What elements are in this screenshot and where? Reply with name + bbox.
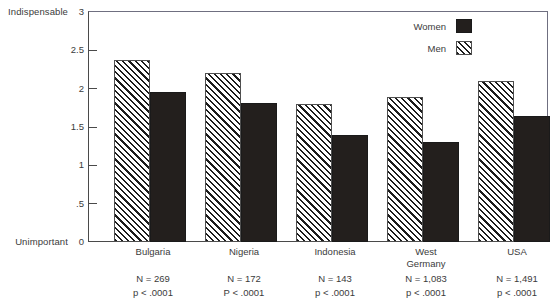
bar-group-nigeria: [205, 12, 283, 242]
p-value-label: p < .0001: [478, 286, 556, 300]
p-value-label: p < .0001: [387, 286, 465, 300]
sample-size-label: N = 269: [136, 273, 170, 284]
y-tick-label: 3: [79, 6, 84, 18]
bar-men-indonesia: [296, 104, 332, 242]
p-value-label: p < .0001: [114, 286, 192, 300]
y-tick-label: 1: [79, 159, 84, 171]
bar-women-bulgaria: [150, 92, 186, 242]
bar-men-bulgaria: [114, 60, 150, 242]
x-category-nigeria: Nigeria: [205, 246, 283, 258]
bar-group-indonesia: [296, 12, 374, 242]
hatched-swatch-icon: [456, 41, 472, 55]
y-tick-1: 1: [0, 159, 88, 171]
x-category-label: Indonesia: [314, 246, 355, 257]
x-category-label-line2: Germany: [387, 258, 465, 270]
x-category-label: Nigeria: [229, 246, 259, 257]
x-stats-nigeria: N = 172 P < .0001: [205, 272, 283, 300]
y-tick-2point5: 2.5: [0, 44, 88, 56]
y-axis: Indispensable 3 2.5 2 1.5 1 .5 Unimporta…: [0, 0, 88, 304]
y-tick-point5: .5: [0, 198, 88, 210]
p-value-label: p < .0001: [296, 286, 374, 300]
bar-group-bulgaria: [114, 12, 192, 242]
x-category-west-germany: West Germany: [387, 246, 465, 270]
y-tick-label: 2.5: [71, 44, 84, 56]
sample-size-label: N = 1,491: [496, 273, 537, 284]
x-stats-indonesia: N = 143 p < .0001: [296, 272, 374, 300]
bars-layer: [89, 12, 547, 242]
x-category-label: West: [415, 246, 436, 257]
bar-women-usa: [514, 116, 550, 243]
x-stats-west-germany: N = 1,083 p < .0001: [387, 272, 465, 300]
y-tick-label: 0: [79, 236, 84, 248]
bar-men-usa: [478, 81, 514, 242]
bar-women-nigeria: [241, 103, 277, 242]
legend-item-women: Women: [372, 18, 476, 36]
y-axis-top-label: Indispensable: [8, 6, 68, 18]
bar-women-indonesia: [332, 135, 368, 242]
x-category-usa: USA: [478, 246, 556, 258]
bar-chart: Indispensable 3 2.5 2 1.5 1 .5 Unimporta…: [0, 0, 560, 304]
x-stats-usa: N = 1,491 p < .0001: [478, 272, 556, 300]
sample-size-label: N = 1,083: [405, 273, 446, 284]
y-tick-label: .5: [76, 198, 84, 210]
y-axis-bottom-label: Unimportant: [15, 236, 68, 248]
x-axis-labels: Bulgaria N = 269 p < .0001 Nigeria N = 1…: [89, 246, 547, 304]
bar-men-nigeria: [205, 73, 241, 242]
x-category-label: USA: [507, 246, 527, 257]
y-tick-0: Unimportant 0: [0, 236, 88, 248]
y-tick-label: 1.5: [71, 121, 84, 133]
p-value-label: P < .0001: [205, 286, 283, 300]
x-category-label: Bulgaria: [136, 246, 171, 257]
bar-group-usa: [478, 12, 556, 242]
y-tick-label: 2: [79, 83, 84, 95]
y-tick-1point5: 1.5: [0, 121, 88, 133]
x-category-bulgaria: Bulgaria: [114, 246, 192, 258]
bar-women-west-germany: [423, 142, 459, 242]
legend-label-men: Men: [428, 42, 446, 55]
bar-men-west-germany: [387, 97, 423, 242]
x-stats-bulgaria: N = 269 p < .0001: [114, 272, 192, 300]
solid-black-swatch-icon: [456, 19, 472, 33]
sample-size-label: N = 143: [318, 273, 352, 284]
legend: Women Men: [372, 18, 476, 62]
legend-label-women: Women: [413, 20, 446, 33]
x-category-indonesia: Indonesia: [296, 246, 374, 258]
sample-size-label: N = 172: [227, 273, 261, 284]
legend-item-men: Men: [372, 40, 476, 58]
y-tick-2: 2: [0, 83, 88, 95]
y-tick-3: Indispensable 3: [0, 6, 88, 18]
